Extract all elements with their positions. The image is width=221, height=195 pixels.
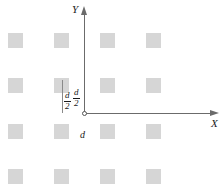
half-period-horizontal-label: d 2	[64, 91, 71, 112]
half-period-vertical-numerator: d	[73, 88, 80, 97]
lattice-square	[100, 169, 115, 184]
lattice-square	[146, 124, 161, 139]
lattice-square	[8, 33, 23, 48]
half-period-horizontal-numerator: d	[64, 91, 71, 100]
y-axis-label: Y	[72, 4, 78, 15]
y-axis-arrowhead	[81, 6, 87, 15]
lattice-square	[100, 78, 115, 93]
lattice-square	[8, 78, 23, 93]
x-axis-arrowhead	[210, 110, 219, 116]
half-period-vertical-label: d 2	[73, 88, 80, 109]
lattice-diagram: X Y d d 2 d 2	[0, 0, 221, 195]
lattice-square	[54, 33, 69, 48]
lattice-square	[54, 169, 69, 184]
lattice-square	[8, 169, 23, 184]
x-axis-line	[84, 113, 210, 114]
period-label-d: d	[80, 130, 85, 140]
y-axis-line	[84, 14, 85, 113]
lattice-square	[100, 33, 115, 48]
lattice-square	[8, 124, 23, 139]
lattice-square	[146, 33, 161, 48]
lattice-square	[54, 124, 69, 139]
half-period-horizontal-denominator: 2	[64, 102, 71, 111]
lattice-square	[146, 169, 161, 184]
dimension-tick-line	[62, 80, 63, 113]
origin-marker	[82, 111, 87, 116]
lattice-square	[146, 78, 161, 93]
lattice-square	[100, 124, 115, 139]
x-axis-label: X	[211, 118, 218, 129]
half-period-vertical-denominator: 2	[73, 99, 80, 108]
